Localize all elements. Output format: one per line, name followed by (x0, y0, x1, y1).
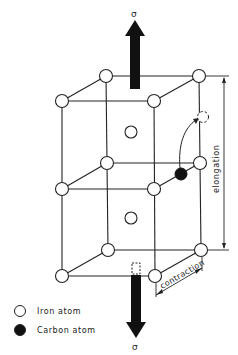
iron-atom-icon (149, 270, 162, 283)
iron-atom-icon (148, 183, 161, 196)
carbon-atom-legend-icon (14, 324, 26, 336)
iron-atom-icon (148, 95, 161, 108)
iron-atom-icon (125, 126, 137, 138)
vacated-interstitial-site-bottom (132, 263, 140, 274)
legend-iron: Iron atom (14, 305, 81, 317)
iron-atom-icon (195, 244, 208, 257)
iron-atom-icon (102, 244, 115, 257)
legend-carbon: Carbon atom (14, 324, 96, 336)
iron-atom-icon (56, 270, 69, 283)
sigma-bottom-label: σ (132, 342, 138, 352)
contraction-label: contraction (159, 258, 207, 291)
legend-carbon-label: Carbon atom (37, 326, 96, 335)
tensile-stress-arrow-bottom (126, 275, 146, 338)
elongation-label: elongation (212, 145, 221, 193)
legend-iron-label: Iron atom (37, 307, 81, 316)
iron-atom-icon (100, 70, 113, 83)
tensile-stress-arrow-top (125, 20, 145, 89)
sigma-top-label: σ (131, 9, 137, 19)
iron-atom-icon (56, 183, 69, 196)
iron-atom-icon (56, 95, 69, 108)
iron-atom-icon (101, 157, 114, 170)
iron-atom-icon (193, 70, 206, 83)
iron-atom-legend-icon (14, 305, 26, 317)
vacant-interstitial-site-icon (198, 112, 209, 123)
iron-atom-icon (194, 157, 207, 170)
crystal-lattice-diagram: elongation contraction σ σ (0, 0, 238, 355)
carbon-atom-icon (175, 168, 187, 180)
iron-atom-icon (125, 212, 137, 224)
